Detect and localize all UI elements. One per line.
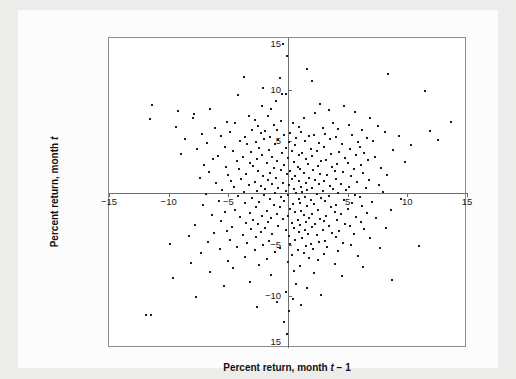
scatter-point — [273, 204, 275, 206]
scatter-point — [300, 186, 302, 188]
scatter-point — [229, 131, 231, 133]
scatter-point — [270, 274, 272, 276]
scatter-point — [281, 93, 283, 95]
scatter-point — [285, 147, 287, 149]
scatter-point — [360, 164, 362, 166]
scatter-point — [308, 135, 310, 137]
scatter-point — [283, 134, 285, 136]
scatter-plot-surface: −15−10−55101515105−5−1015 — [109, 38, 465, 346]
scatter-point — [267, 179, 269, 181]
scatter-point — [329, 185, 331, 187]
scatter-point — [304, 229, 306, 231]
scatter-point — [299, 224, 301, 226]
scatter-point — [271, 233, 273, 235]
scatter-point — [304, 196, 306, 198]
scatter-point — [250, 151, 252, 153]
scatter-point — [203, 164, 205, 166]
scatter-point — [312, 248, 314, 250]
scatter-point — [392, 149, 394, 151]
scatter-point — [291, 178, 293, 180]
scatter-point — [285, 93, 287, 95]
scatter-point — [237, 94, 239, 96]
scatter-point — [361, 129, 363, 131]
scatter-point — [424, 90, 426, 92]
scatter-point — [311, 155, 313, 157]
scatter-point — [320, 294, 322, 296]
scatter-point — [297, 249, 299, 251]
scatter-point — [254, 249, 256, 251]
scatter-point — [331, 166, 333, 168]
scatter-point — [367, 159, 369, 161]
scatter-point — [273, 167, 275, 169]
scatter-point — [172, 277, 174, 279]
scatter-point — [294, 211, 296, 213]
scatter-point — [232, 267, 234, 269]
scatter-point — [298, 126, 300, 128]
scatter-point — [361, 205, 363, 207]
scatter-point — [316, 234, 318, 236]
scatter-point — [311, 80, 313, 82]
scatter-point — [276, 213, 278, 215]
scatter-point — [341, 275, 343, 277]
scatter-point — [326, 246, 328, 248]
scatter-point — [303, 117, 305, 119]
scatter-point — [277, 139, 279, 141]
scatter-point — [418, 245, 420, 247]
scatter-point — [286, 333, 288, 335]
scatter-point — [258, 264, 260, 266]
scatter-point — [220, 135, 222, 137]
scatter-point — [280, 120, 282, 122]
scatter-point — [263, 194, 265, 196]
scatter-point — [384, 131, 386, 133]
scatter-point — [257, 125, 259, 127]
scatter-point — [283, 321, 285, 323]
scatter-point — [307, 163, 309, 165]
scatter-point — [286, 55, 288, 57]
scatter-point — [291, 150, 293, 152]
scatter-point — [219, 248, 221, 250]
scatter-point — [269, 136, 271, 138]
scatter-point — [243, 76, 245, 78]
scatter-point — [308, 257, 310, 259]
scatter-point — [353, 233, 355, 235]
scatter-point — [274, 251, 276, 253]
scatter-point — [380, 167, 382, 169]
scatter-point — [199, 177, 201, 179]
scatter-point — [371, 201, 373, 203]
scatter-point — [280, 169, 282, 171]
scatter-point — [195, 296, 197, 298]
y-tick-label-5: 15 — [109, 337, 281, 347]
scatter-point — [274, 143, 276, 145]
scatter-point — [220, 220, 222, 222]
scatter-point — [269, 198, 271, 200]
scatter-point — [306, 287, 308, 289]
scatter-point — [328, 195, 330, 197]
scatter-point — [291, 254, 293, 256]
scatter-point — [287, 157, 289, 159]
scatter-point — [300, 131, 302, 133]
scatter-point — [337, 250, 339, 252]
scatter-point — [214, 127, 216, 129]
scatter-point — [150, 314, 152, 316]
scatter-point — [310, 243, 312, 245]
scatter-point — [317, 259, 319, 261]
scatter-point — [310, 199, 312, 201]
scatter-point — [330, 153, 332, 155]
scatter-point — [326, 174, 328, 176]
scatter-point — [317, 209, 319, 211]
figure-container: −15−10−55101515105−5−1015 Percent return… — [0, 0, 516, 379]
scatter-point — [318, 241, 320, 243]
scatter-point — [277, 225, 279, 227]
scatter-point — [351, 202, 353, 204]
scatter-point — [288, 184, 290, 186]
scatter-point — [206, 142, 208, 144]
scatter-point — [374, 156, 376, 158]
scatter-point — [308, 217, 310, 219]
scatter-point — [213, 232, 215, 234]
scatter-point — [298, 154, 300, 156]
scatter-point — [382, 191, 384, 193]
scatter-point — [323, 220, 325, 222]
scatter-point — [224, 211, 226, 213]
scatter-point — [336, 163, 338, 165]
scatter-point — [362, 172, 364, 174]
